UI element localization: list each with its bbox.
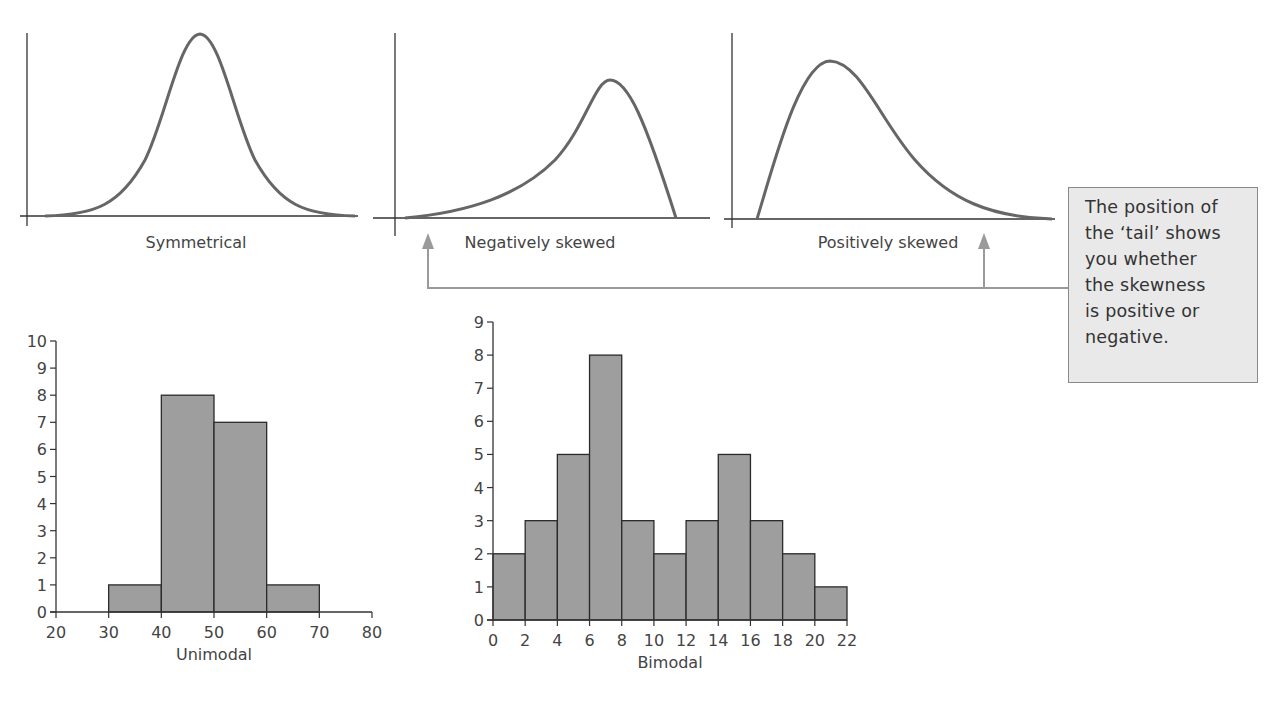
callout-text-line: is positive or bbox=[1085, 298, 1249, 324]
x-tick-label: 4 bbox=[552, 631, 562, 650]
y-tick-label: 2 bbox=[37, 549, 47, 568]
x-tick-label: 10 bbox=[644, 631, 664, 650]
y-tick-label: 7 bbox=[37, 413, 47, 432]
histogram-bar bbox=[718, 454, 750, 620]
x-tick-label: 2 bbox=[520, 631, 530, 650]
histogram-bar bbox=[109, 585, 162, 612]
x-tick-label: 14 bbox=[708, 631, 728, 650]
x-tick-label: 50 bbox=[204, 623, 224, 642]
positive-skew-label: Positively skewed bbox=[818, 233, 959, 252]
histogram-bar bbox=[654, 554, 686, 620]
histogram-bar bbox=[622, 521, 654, 620]
x-tick-label: 0 bbox=[488, 631, 498, 650]
callout-text-line: the skewness bbox=[1085, 272, 1249, 298]
arrow-up-icon bbox=[422, 233, 434, 249]
bimodal-histogram: 01234567890246810121416182022Bimodal bbox=[474, 313, 857, 672]
callout-text-line: The position of bbox=[1085, 194, 1249, 220]
y-tick-label: 5 bbox=[37, 468, 47, 487]
y-tick-label: 0 bbox=[474, 611, 484, 630]
x-axis-title: Unimodal bbox=[176, 645, 252, 664]
symmetrical-curve bbox=[45, 34, 355, 216]
y-tick-label: 7 bbox=[474, 379, 484, 398]
y-tick-label: 3 bbox=[474, 512, 484, 531]
y-tick-label: 2 bbox=[474, 545, 484, 564]
x-tick-label: 6 bbox=[584, 631, 594, 650]
negative-skew-label: Negatively skewed bbox=[465, 233, 616, 252]
positive-skew-curve bbox=[757, 61, 1052, 219]
y-tick-label: 1 bbox=[474, 578, 484, 597]
unimodal-histogram: 01234567891020304050607080Unimodal bbox=[27, 332, 383, 664]
y-tick-label: 10 bbox=[27, 332, 47, 351]
y-tick-label: 0 bbox=[37, 603, 47, 622]
x-tick-label: 16 bbox=[740, 631, 760, 650]
histogram-bar bbox=[525, 521, 557, 620]
histogram-bar bbox=[557, 454, 589, 620]
histogram-bar bbox=[267, 585, 320, 612]
symmetrical-label: Symmetrical bbox=[146, 233, 247, 252]
x-axis-title: Bimodal bbox=[637, 653, 702, 672]
y-tick-label: 9 bbox=[474, 313, 484, 332]
y-tick-label: 8 bbox=[474, 346, 484, 365]
y-tick-label: 3 bbox=[37, 522, 47, 541]
callout-text-line: negative. bbox=[1085, 324, 1249, 350]
histogram-bar bbox=[161, 395, 214, 612]
y-tick-label: 1 bbox=[37, 576, 47, 595]
x-tick-label: 20 bbox=[805, 631, 825, 650]
callout-text-line: you whether bbox=[1085, 246, 1249, 272]
negative-skew-curve bbox=[405, 80, 676, 218]
skewness-callout-box: The position of the ‘tail’ shows you whe… bbox=[1068, 187, 1258, 383]
x-tick-label: 80 bbox=[362, 623, 382, 642]
histogram-bar bbox=[750, 521, 782, 620]
y-tick-label: 5 bbox=[474, 445, 484, 464]
histogram-bar bbox=[590, 355, 622, 620]
histogram-bar bbox=[686, 521, 718, 620]
symmetrical-curve-chart: Symmetrical bbox=[20, 33, 358, 252]
histogram-bar bbox=[214, 422, 267, 612]
histogram-bar bbox=[783, 554, 815, 620]
x-tick-label: 70 bbox=[309, 623, 329, 642]
x-tick-label: 60 bbox=[256, 623, 276, 642]
x-tick-label: 22 bbox=[837, 631, 857, 650]
x-tick-label: 8 bbox=[617, 631, 627, 650]
y-tick-label: 8 bbox=[37, 386, 47, 405]
arrow-up-icon bbox=[978, 233, 990, 249]
histogram-bar bbox=[493, 554, 525, 620]
x-tick-label: 30 bbox=[98, 623, 118, 642]
y-tick-label: 6 bbox=[37, 440, 47, 459]
y-tick-label: 9 bbox=[37, 359, 47, 378]
y-tick-label: 6 bbox=[474, 412, 484, 431]
x-tick-label: 20 bbox=[46, 623, 66, 642]
x-tick-label: 12 bbox=[676, 631, 696, 650]
y-tick-label: 4 bbox=[37, 495, 47, 514]
y-tick-label: 4 bbox=[474, 479, 484, 498]
histogram-bar bbox=[815, 587, 847, 620]
x-tick-label: 18 bbox=[772, 631, 792, 650]
x-tick-label: 40 bbox=[151, 623, 171, 642]
callout-text-line: the ‘tail’ shows bbox=[1085, 220, 1249, 246]
negative-skew-chart: Negatively skewed bbox=[373, 33, 710, 252]
positive-skew-chart: Positively skewed bbox=[724, 33, 1055, 252]
